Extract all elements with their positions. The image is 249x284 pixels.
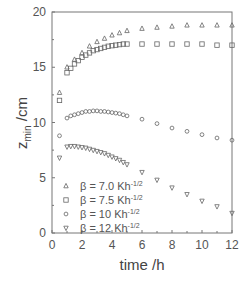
- data-point: [84, 110, 88, 114]
- legend-label-sup: -1/2: [131, 180, 143, 187]
- chart: 024681012 05101520 time /h zmin /cm β = …: [0, 0, 249, 284]
- square-marker: [64, 198, 68, 202]
- data-point: [200, 42, 204, 46]
- data-point: [99, 110, 103, 114]
- data-point: [114, 111, 118, 115]
- x-tick-label: 10: [195, 238, 209, 252]
- data-point: [91, 148, 95, 152]
- data-point: [117, 30, 121, 34]
- svg-text:β = 7.5 Kh-1/2: β = 7.5 Kh-1/2: [80, 194, 143, 206]
- data-point: [57, 156, 61, 160]
- data-point: [73, 113, 77, 117]
- data-point: [110, 33, 114, 37]
- data-point: [185, 23, 189, 27]
- data-point: [84, 146, 88, 150]
- data-point: [65, 71, 69, 75]
- y-axis-title-sub: min: [22, 125, 33, 141]
- data-point: [76, 112, 80, 116]
- triangle-up-marker: [64, 183, 68, 187]
- svg-text:β = 10 Kh-1/2: β = 10 Kh-1/2: [80, 208, 140, 220]
- x-axis-title: time /h: [119, 256, 164, 273]
- legend-item: β = 10 Kh-1/2: [64, 208, 140, 220]
- data-point: [170, 42, 174, 46]
- legend-item: β = 12 Kh-1/2: [64, 222, 140, 234]
- svg-text:β = 7.0 Kh-1/2: β = 7.0 Kh-1/2: [80, 180, 143, 192]
- y-tick-label: 0: [39, 226, 46, 240]
- data-point: [170, 126, 174, 130]
- data-point: [185, 193, 189, 197]
- y-tick-label: 15: [33, 60, 47, 74]
- data-point: [65, 145, 69, 149]
- series-circle: [58, 109, 234, 142]
- data-point: [125, 28, 129, 32]
- data-point: [80, 111, 84, 115]
- data-point: [215, 23, 219, 27]
- data-point: [103, 110, 107, 114]
- data-point: [87, 147, 91, 151]
- data-point: [140, 117, 144, 121]
- legend-label: β = 7.5 Kh: [80, 194, 131, 206]
- data-point: [200, 23, 204, 27]
- data-point: [140, 42, 144, 46]
- y-axis-title-main: z: [13, 141, 30, 149]
- circle-icon: [64, 212, 68, 216]
- data-point: [200, 199, 204, 203]
- data-point: [87, 44, 91, 48]
- data-point: [170, 186, 174, 190]
- data-point: [57, 98, 61, 102]
- data-point: [91, 109, 95, 113]
- circle-marker: [64, 212, 68, 216]
- y-tick-label: 20: [33, 5, 47, 19]
- triangle-down-icon: [64, 226, 68, 230]
- data-point: [88, 110, 92, 114]
- data-point: [99, 151, 103, 155]
- data-point: [110, 111, 114, 115]
- data-point: [58, 134, 62, 138]
- data-point: [65, 116, 69, 120]
- data-point: [125, 163, 129, 167]
- legend-item: β = 7.5 Kh-1/2: [64, 194, 143, 206]
- data-point: [69, 114, 73, 118]
- data-point: [215, 205, 219, 209]
- legend-label: β = 12 Kh: [80, 222, 128, 234]
- data-point: [118, 112, 122, 116]
- legend-label-sup: -1/2: [131, 194, 143, 201]
- y-tick-label: 5: [39, 171, 46, 185]
- data-point: [185, 129, 189, 133]
- svg-text:zmin /cm: zmin /cm: [13, 97, 33, 149]
- svg-text:β = 12 Kh-1/2: β = 12 Kh-1/2: [80, 222, 140, 234]
- data-point: [140, 26, 144, 30]
- y-axis-title-unit: /cm: [13, 97, 30, 125]
- data-point: [95, 149, 99, 153]
- data-point: [95, 109, 99, 113]
- legend-label: β = 10 Kh: [80, 208, 128, 220]
- data-point: [121, 113, 125, 117]
- data-point: [170, 24, 174, 28]
- data-point: [140, 170, 144, 174]
- legend-label: β = 7.0 Kh: [80, 180, 131, 192]
- data-point: [102, 36, 106, 40]
- x-tick-label: 0: [49, 238, 56, 252]
- data-point: [200, 133, 204, 137]
- x-tick-label: 2: [79, 238, 86, 252]
- data-point: [106, 110, 110, 114]
- series-square: [57, 42, 234, 103]
- data-point: [185, 42, 189, 46]
- legend-label-sup: -1/2: [128, 208, 140, 215]
- data-point: [215, 136, 219, 140]
- y-axis-title: zmin /cm: [13, 97, 33, 149]
- legend: β = 7.0 Kh-1/2 β = 7.5 Kh-1/2 β = 10 Kh-…: [64, 180, 143, 234]
- data-point: [125, 114, 129, 118]
- legend-label-sup: -1/2: [128, 222, 140, 229]
- y-tick-label: 10: [33, 116, 47, 130]
- legend-item: β = 7.0 Kh-1/2: [64, 180, 143, 192]
- data-point: [155, 122, 159, 126]
- x-tick-label: 6: [139, 238, 146, 252]
- square-icon: [64, 198, 68, 202]
- data-point: [57, 90, 61, 94]
- x-tick-label: 4: [109, 238, 116, 252]
- x-tick-label: 12: [225, 238, 239, 252]
- data-point: [155, 178, 159, 182]
- data-point: [155, 42, 159, 46]
- data-point: [155, 25, 159, 29]
